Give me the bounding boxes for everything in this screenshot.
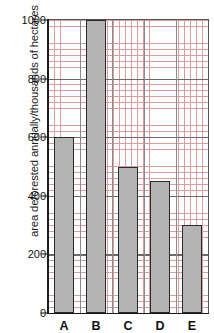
bar-d (150, 181, 170, 313)
x-tick-label-c: C (113, 319, 143, 333)
bar-chart: area deforested annually/thousands of he… (0, 0, 214, 333)
x-axis-line (47, 313, 209, 315)
gridline-vertical (144, 20, 145, 313)
bar-b (86, 20, 106, 313)
x-tick-label-d: D (145, 319, 175, 333)
gridline-vertical (176, 20, 177, 313)
x-tick-label-e: E (177, 319, 207, 333)
axis-right-border (208, 19, 209, 314)
bar-e (182, 225, 202, 313)
y-tick-mark-400 (41, 195, 48, 196)
y-axis-line (47, 19, 49, 314)
y-tick-mark-0 (41, 313, 48, 314)
plot-area (48, 20, 208, 313)
x-tick-label-b: B (81, 319, 111, 333)
y-tick-mark-800 (41, 78, 48, 79)
gridline-vertical (80, 20, 81, 313)
y-tick-mark-200 (41, 254, 48, 255)
gridline-vertical (112, 20, 113, 313)
y-tick-mark-600 (41, 137, 48, 138)
bar-a (54, 137, 74, 313)
x-tick-label-a: A (49, 319, 79, 333)
gridline-horizontal (48, 79, 208, 80)
axis-top-border (47, 19, 209, 20)
bar-c (118, 167, 138, 314)
y-tick-mark-1000 (41, 20, 48, 21)
